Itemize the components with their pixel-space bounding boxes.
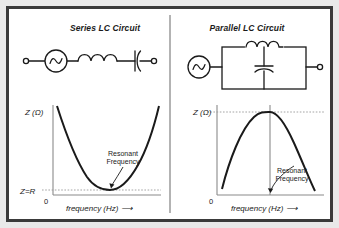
terminal-right-icon-parallel <box>317 64 322 69</box>
series-z-equals-r-label: Z=R <box>20 187 35 196</box>
parallel-resonant-line1: Resonant <box>277 167 307 174</box>
parallel-x-axis-text: frequency (Hz) <box>231 204 283 213</box>
terminal-left-icon <box>23 58 28 63</box>
figure-graphics <box>9 9 330 219</box>
parallel-resonant-line2: Frequency <box>275 175 308 182</box>
series-x-axis-text: frequency (Hz) <box>66 204 118 213</box>
series-circuit-diagram <box>23 50 156 72</box>
series-resonant-arrow <box>112 167 123 185</box>
series-x-axis-arrow-icon: ⟶ <box>121 204 132 213</box>
series-resonant-arrowhead <box>109 183 114 188</box>
parallel-y-axis-label: Z (Ω) <box>193 108 212 117</box>
series-resonant-line1: Resonant <box>108 150 138 157</box>
series-resonant-frequency-annotation: ResonantFrequency <box>95 150 151 166</box>
figure-frame: Series LC Circuit Parallel LC Circuit Z … <box>6 6 333 222</box>
parallel-resonant-arrowhead <box>268 188 273 193</box>
series-origin-label: 0 <box>44 197 48 206</box>
parallel-resonant-frequency-annotation: ResonantFrequency <box>264 167 320 183</box>
figure-root: Series LC Circuit Parallel LC Circuit Z … <box>0 0 339 228</box>
series-resonant-line2: Frequency <box>106 158 139 165</box>
terminal-right-icon <box>151 58 156 63</box>
parallel-x-axis-label: frequency (Hz) ⟶ <box>231 204 297 213</box>
parallel-circuit-diagram <box>188 41 323 89</box>
series-y-axis-label: Z (Ω) <box>25 108 44 117</box>
parallel-x-axis-arrow-icon: ⟶ <box>286 204 297 213</box>
series-panel-title: Series LC Circuit <box>45 23 165 33</box>
parallel-origin-label: 0 <box>209 197 213 206</box>
parallel-panel-title: Parallel LC Circuit <box>177 23 317 33</box>
inductor-icon <box>78 55 117 61</box>
series-impedance-curve <box>57 106 159 190</box>
series-x-axis-label: frequency (Hz) ⟶ <box>66 204 132 213</box>
